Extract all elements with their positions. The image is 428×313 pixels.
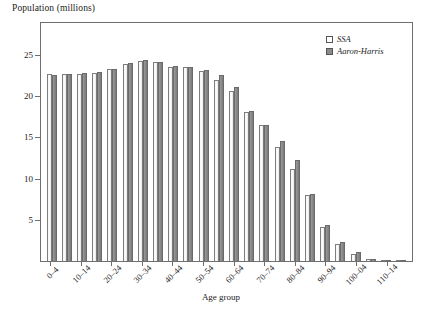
bar-group (211, 23, 226, 261)
bar-group (378, 23, 393, 261)
bar-aaron-harris (67, 74, 72, 261)
legend-item-aaron-harris: Aaron-Harris (326, 45, 383, 57)
bar-aaron-harris (264, 125, 269, 261)
bar-aaron-harris (143, 60, 148, 261)
population-by-age-group-chart: Population (millions) 510152025 0–410–14… (0, 0, 428, 313)
bar-group (257, 23, 272, 261)
bar-group (394, 23, 409, 261)
y-axis: 510152025 (0, 22, 40, 262)
bar-group (272, 23, 287, 261)
bar-aaron-harris (188, 67, 193, 261)
bar-group (318, 23, 333, 261)
bar-group (150, 23, 165, 261)
legend-label-aaron-harris: Aaron-Harris (337, 45, 383, 57)
bar-aaron-harris (97, 72, 102, 261)
y-axis-title: Population (millions) (12, 3, 95, 13)
bar-aaron-harris (52, 75, 57, 261)
y-tick-label: 5 (29, 214, 34, 227)
y-tick-label: 10 (24, 173, 33, 186)
bar-aaron-harris (310, 194, 315, 261)
dark-square-swatch-icon (326, 48, 333, 55)
legend-label-ssa: SSA (337, 33, 351, 45)
legend-item-ssa: SSA (326, 33, 383, 45)
bar-aaron-harris (234, 87, 239, 261)
bar-aaron-harris (249, 111, 254, 261)
x-tick-label: 0–4 (51, 259, 67, 275)
bar-aaron-harris (82, 73, 87, 261)
bar-group (348, 23, 363, 261)
x-axis: 0–410–1420–2430–3440–4450–5460–6470–7480… (40, 262, 413, 312)
bar-group (74, 23, 89, 261)
light-square-swatch-icon (326, 36, 333, 43)
bar-group (44, 23, 59, 261)
bar-group (166, 23, 181, 261)
bar-group (333, 23, 348, 261)
bar-group (135, 23, 150, 261)
bar-aaron-harris (386, 260, 391, 261)
y-tick-label: 15 (24, 131, 33, 144)
bar-group (242, 23, 257, 261)
bar-aaron-harris (219, 75, 224, 261)
bar-aaron-harris (204, 70, 209, 261)
chart-legend: SSA Aaron-Harris (326, 33, 383, 57)
bar-group (226, 23, 241, 261)
bar-group (287, 23, 302, 261)
bar-aaron-harris (112, 69, 117, 261)
bar-group (181, 23, 196, 261)
bar-aaron-harris (280, 141, 285, 261)
bar-aaron-harris (128, 63, 133, 261)
bar-group (120, 23, 135, 261)
bar-group (59, 23, 74, 261)
bar-aaron-harris (173, 66, 178, 261)
y-tick-label: 25 (24, 49, 33, 62)
bar-series-container (41, 23, 412, 261)
bar-group (363, 23, 378, 261)
x-axis-title: Age group (0, 292, 428, 302)
bar-aaron-harris (158, 62, 163, 261)
bar-group (105, 23, 120, 261)
bar-group (90, 23, 105, 261)
plot-area (40, 22, 413, 262)
bar-aaron-harris (295, 160, 300, 261)
bar-aaron-harris (356, 252, 361, 261)
bar-aaron-harris (325, 225, 330, 261)
bar-group (196, 23, 211, 261)
y-tick-label: 20 (24, 90, 33, 103)
bar-group (302, 23, 317, 261)
